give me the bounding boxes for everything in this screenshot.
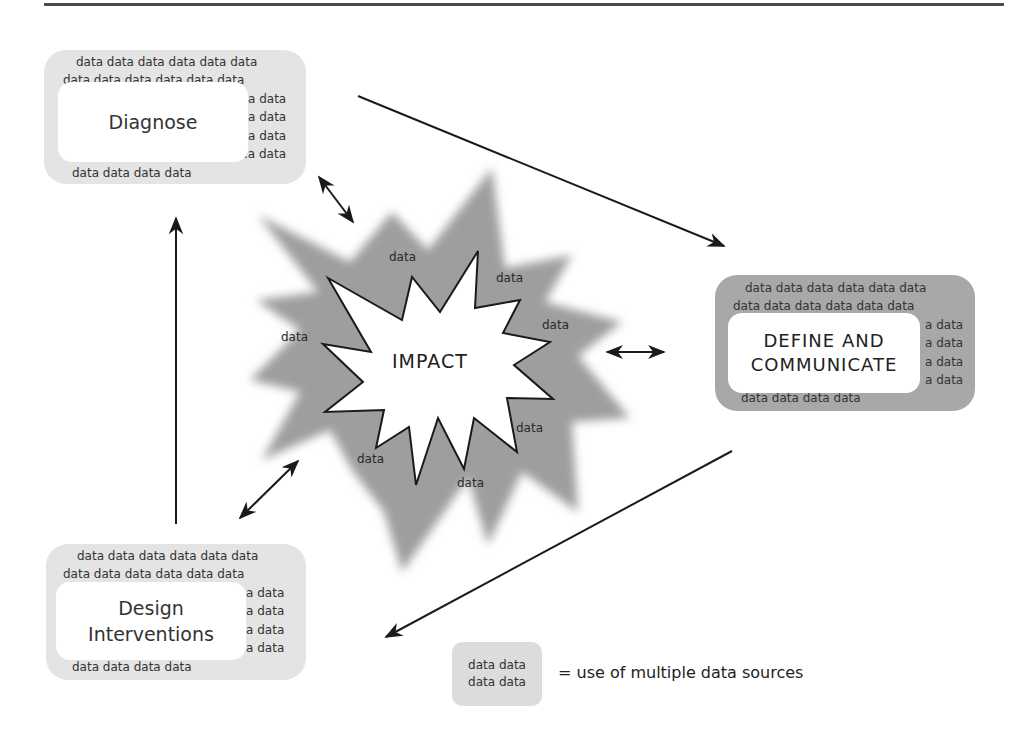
data-row: data data data data: [72, 658, 192, 676]
legend-swatch-line: data data: [468, 657, 526, 674]
data-row: a data: [248, 127, 286, 145]
data-row: :a data: [242, 639, 284, 657]
data-row: data data data data data data: [76, 53, 257, 71]
star-data-word: data: [281, 330, 308, 344]
legend-swatch: data data data data: [452, 642, 542, 706]
data-row: .a data: [244, 145, 286, 163]
star-data-word: data: [516, 421, 543, 435]
double-arrow-diagnose-impact: [319, 177, 353, 222]
data-row: a data: [925, 353, 963, 371]
data-row: a data: [248, 108, 286, 126]
data-row: a data: [248, 90, 286, 108]
star-data-word: data: [496, 271, 523, 285]
data-row: a data: [925, 371, 963, 389]
arrow-diagnose-to-define: [358, 96, 724, 246]
legend-text: = use of multiple data sources: [558, 663, 803, 682]
data-row: data data data data: [72, 164, 192, 182]
data-row: data data data data data data: [745, 279, 926, 297]
star-data-word: data: [357, 452, 384, 466]
data-row: :a data: [242, 602, 284, 620]
star-data-word: data: [389, 250, 416, 264]
node-design-interventions: data data data data data data data data …: [46, 544, 306, 680]
data-row: data data data data data data: [63, 565, 244, 583]
node-diagnose-label-box: Diagnose: [58, 82, 248, 162]
double-arrow-design-impact: [240, 461, 298, 518]
node-label-line-1: Design: [118, 595, 184, 621]
impact-label: IMPACT: [392, 350, 468, 372]
node-define-and-communicate: data data data data data data data data …: [715, 275, 975, 411]
node-label-line-2: COMMUNICATE: [751, 353, 898, 377]
node-label-line-1: DEFINE AND: [763, 329, 884, 353]
node-design-label-box: Design Interventions: [56, 582, 246, 660]
data-row: a data: [925, 334, 963, 352]
node-diagnose: data data data data data data data data …: [44, 50, 306, 184]
node-label-line-2: Interventions: [88, 621, 214, 647]
data-row: data data data data data data: [77, 547, 258, 565]
node-label: Diagnose: [109, 109, 198, 135]
data-row: :a data: [242, 621, 284, 639]
data-row: :a data: [242, 584, 284, 602]
node-define-label-box: DEFINE AND COMMUNICATE: [728, 313, 920, 393]
legend-swatch-line: data data: [468, 674, 526, 691]
data-row: a data: [925, 316, 963, 334]
star-data-word: data: [542, 318, 569, 332]
star-data-word: data: [457, 476, 484, 490]
